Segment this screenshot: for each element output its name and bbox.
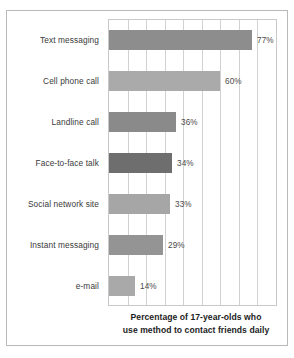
bar-row[interactable]: 14% [108, 276, 277, 296]
bar-row[interactable]: 60% [108, 71, 277, 91]
bars-layer: 77%60%36%34%33%29%14% [108, 19, 277, 306]
bar[interactable] [109, 235, 163, 255]
bar-value-label: 77% [257, 35, 274, 44]
bar-row[interactable]: 29% [108, 235, 277, 255]
bar-value-label: 34% [177, 158, 194, 167]
category-label: e-mail [7, 281, 99, 291]
bar[interactable] [109, 112, 176, 132]
bar-value-label: 14% [140, 281, 157, 290]
bar[interactable] [109, 30, 252, 50]
bar-value-label: 29% [168, 240, 185, 249]
bar-row[interactable]: 33% [108, 194, 277, 214]
category-label: Text messaging [7, 35, 99, 45]
category-label: Face-to-face talk [7, 158, 99, 168]
axis-title-line-2: use method to contact friends daily [106, 324, 286, 337]
category-axis: Text messagingCell phone callLandline ca… [7, 19, 105, 306]
bar-row[interactable]: 77% [108, 30, 277, 50]
bar-value-label: 60% [225, 76, 242, 85]
category-label: Landline call [7, 117, 99, 127]
bar-row[interactable]: 36% [108, 112, 277, 132]
axis-title: Percentage of 17-year-olds who use metho… [106, 311, 286, 336]
bar-row[interactable]: 34% [108, 153, 277, 173]
axis-title-line-1: Percentage of 17-year-olds who [106, 311, 286, 324]
bar[interactable] [109, 194, 170, 214]
bar-chart: Text messagingCell phone callLandline ca… [7, 11, 287, 345]
bar[interactable] [109, 276, 135, 296]
category-label: Instant messaging [7, 240, 99, 250]
category-label: Social network site [7, 199, 99, 209]
bar-value-label: 36% [181, 117, 198, 126]
chart-frame: Text messagingCell phone callLandline ca… [6, 10, 288, 346]
category-label: Cell phone call [7, 76, 99, 86]
bar[interactable] [109, 153, 172, 173]
bar[interactable] [109, 71, 220, 91]
bar-value-label: 33% [175, 199, 192, 208]
